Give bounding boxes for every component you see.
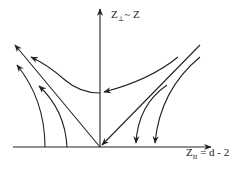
horizontal-axis-label-sub: II	[193, 153, 198, 161]
parabola-flow-right	[104, 57, 178, 92]
horizontal-axis-label-rest: = d - 2	[197, 146, 229, 158]
vertical-axis-label: Z⊥~ Z	[111, 8, 140, 20]
separatrix-right	[102, 45, 200, 145]
vertical-axis-label-main: Z	[111, 8, 118, 20]
vertical-axis-label-sub: ⊥	[118, 15, 125, 23]
separatrix-left	[15, 45, 100, 147]
horizontal-axis-label: ZII = d - 2	[186, 146, 229, 158]
left-outer-curve	[17, 65, 45, 147]
horizontal-axis-label-main: Z	[186, 146, 193, 158]
vertical-axis-label-rest: ~ Z	[124, 8, 139, 20]
right-inner-curve	[136, 85, 167, 143]
left-inner-curve	[39, 86, 67, 147]
right-outer-curve	[155, 57, 200, 143]
